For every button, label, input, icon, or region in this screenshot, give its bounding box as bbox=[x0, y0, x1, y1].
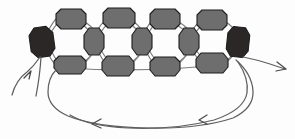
node-bot-3[interactable] bbox=[150, 57, 180, 76]
node-bot-2[interactable] bbox=[102, 56, 134, 76]
node-top-4[interactable] bbox=[197, 10, 227, 30]
node-bot-1[interactable] bbox=[54, 56, 86, 74]
node-mid-3[interactable] bbox=[179, 28, 199, 55]
chain-lattice-diagram bbox=[0, 0, 295, 139]
node-mid-1[interactable] bbox=[84, 28, 104, 55]
node-group-middle-row bbox=[84, 28, 199, 55]
node-terminal-right[interactable] bbox=[225, 26, 250, 58]
node-mid-2[interactable] bbox=[132, 28, 152, 55]
node-bot-4[interactable] bbox=[196, 53, 228, 73]
terminal-right-wrap bbox=[225, 26, 250, 58]
node-top-3[interactable] bbox=[150, 9, 180, 29]
node-top-1[interactable] bbox=[56, 9, 86, 29]
diagram-canvas bbox=[0, 0, 295, 139]
node-top-2[interactable] bbox=[103, 8, 135, 28]
